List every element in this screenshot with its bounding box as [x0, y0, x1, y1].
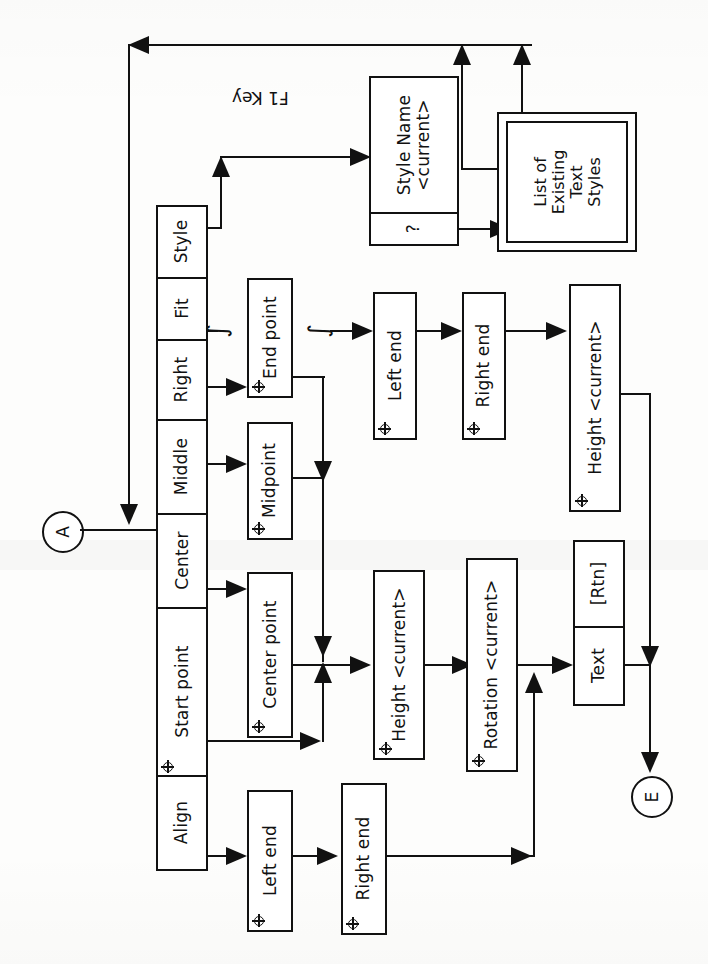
- rtn-label: [Rtn]: [575, 542, 623, 626]
- fit-right-end-label: Right end: [464, 294, 504, 438]
- center-out-arrow: [226, 580, 247, 598]
- f1-key-label: F1 Key: [232, 48, 289, 148]
- style-name-return-riser: [461, 52, 463, 170]
- right-out-arrow: [226, 378, 247, 396]
- f1-left-riser: [128, 44, 130, 518]
- existing-styles-label: List ofExistingTextStyles: [499, 114, 635, 250]
- break-symbol-fit-2: ∫: [311, 318, 325, 344]
- fit-right-end-box[interactable]: Right end: [462, 292, 506, 440]
- style-to-prompt-arrow: [350, 148, 371, 166]
- align-right-end-box[interactable]: Right end: [341, 783, 387, 935]
- crosshair-icon: [346, 917, 359, 930]
- rotation-to-text-arrow: [552, 656, 573, 674]
- connector-a-line: [80, 529, 158, 531]
- text-entry-box[interactable]: [Rtn] Text: [573, 540, 625, 706]
- f1-return-line: [146, 44, 532, 46]
- flowchart-page: F1 Key A Style Fit Right Middle Center S…: [0, 0, 708, 964]
- option-middle[interactable]: Middle: [158, 421, 206, 513]
- fit-left-end-label: Left end: [375, 294, 415, 438]
- midpoint-box[interactable]: Midpoint: [247, 422, 293, 540]
- option-right[interactable]: Right: [158, 341, 206, 419]
- start-point-merge-arrow: [314, 662, 332, 683]
- connector-a: A: [42, 511, 84, 553]
- crosshair-icon: [378, 422, 391, 435]
- option-align[interactable]: Align: [158, 777, 206, 869]
- end-point-label: End point: [249, 280, 291, 396]
- crosshair-icon: [252, 380, 265, 393]
- start-point-out-line: [208, 740, 308, 742]
- option-start-point[interactable]: Start point: [158, 609, 206, 775]
- to-height-arrow: [350, 656, 371, 674]
- fit-height-box[interactable]: Height <current>: [569, 284, 621, 512]
- rotation-box[interactable]: Rotation <current>: [466, 558, 518, 772]
- fit-height-label: Height <current>: [571, 286, 619, 510]
- crosshair-icon: [575, 494, 588, 507]
- option-center[interactable]: Center: [158, 515, 206, 607]
- align-out-arrow: [226, 847, 247, 865]
- align-return-up-arrow: [525, 672, 543, 693]
- crosshair-icon: [467, 422, 480, 435]
- align-left-to-right-arrow: [317, 847, 338, 865]
- fit-chain-arrow: [352, 322, 373, 340]
- style-name-prompt-box[interactable]: Style Name<current> ?: [369, 76, 459, 246]
- rotation-label: Rotation <current>: [468, 560, 516, 770]
- align-left-end-box[interactable]: Left end: [247, 790, 293, 932]
- existing-styles-list-box: List ofExistingTextStyles: [497, 112, 637, 252]
- style-help-label[interactable]: ?: [371, 214, 457, 244]
- fit-right-to-height-arrow: [546, 322, 567, 340]
- style-to-prompt-line: [220, 156, 352, 158]
- text-options-column[interactable]: Style Fit Right Middle Center Start poin…: [156, 205, 208, 871]
- align-left-end-label: Left end: [249, 792, 291, 930]
- text-out-line: [625, 664, 651, 666]
- height-label: Height <current>: [375, 572, 423, 758]
- style-out-arrow: [212, 156, 230, 177]
- text-to-e-arrow: [641, 752, 659, 773]
- crosshair-icon: [379, 742, 392, 755]
- crosshair-icon: [472, 754, 485, 767]
- end-point-box[interactable]: End point: [247, 278, 293, 398]
- option-fit[interactable]: Fit: [158, 279, 206, 339]
- fit-height-down-line: [649, 393, 651, 663]
- middle-out-arrow: [226, 455, 247, 473]
- height-box[interactable]: Height <current>: [373, 570, 425, 760]
- connector-e: E: [631, 776, 673, 818]
- style-out-riser: [220, 176, 222, 229]
- crosshair-icon: [161, 760, 174, 773]
- style-name-label: Style Name<current>: [371, 78, 457, 212]
- fit-height-out-line: [621, 393, 651, 395]
- end-point-out-line: [293, 376, 325, 378]
- f1-left-riser-arrow: [120, 504, 138, 525]
- f1-return-arrow: [128, 36, 149, 54]
- text-label: Text: [575, 628, 623, 704]
- crosshair-icon: [252, 914, 265, 927]
- align-return-riser: [533, 690, 535, 857]
- fit-left-to-right-arrow: [441, 322, 462, 340]
- break-symbol-fit: ∫: [210, 318, 224, 344]
- align-return-arrow: [511, 847, 532, 865]
- upper-merge-down-arrow: [314, 636, 332, 657]
- crosshair-icon: [252, 720, 265, 733]
- midpoint-label: Midpoint: [249, 424, 291, 538]
- start-point-riser: [322, 674, 324, 742]
- upper-merge-bus: [322, 376, 324, 662]
- style-name-return-arrow: [453, 44, 471, 65]
- center-point-box[interactable]: Center point: [247, 572, 293, 738]
- start-point-out-arrow: [300, 732, 321, 750]
- option-style[interactable]: Style: [158, 207, 206, 277]
- style-list-return-arrow: [513, 44, 531, 65]
- fit-left-end-box[interactable]: Left end: [373, 292, 417, 440]
- center-point-label: Center point: [249, 574, 291, 736]
- align-right-end-label: Right end: [343, 785, 385, 933]
- crosshair-icon: [252, 522, 265, 535]
